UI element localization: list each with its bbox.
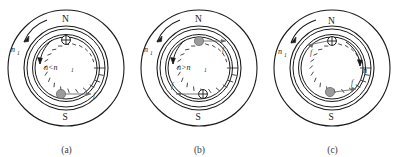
- diagram-panel-a: n 1 n<n 1 f N S (a): [0, 0, 133, 157]
- panel-c-drawing: n 1 n f f N S: [266, 0, 399, 150]
- rotor-relation-label: n<n: [44, 63, 57, 72]
- conductor-into-page-bottom: [56, 89, 65, 98]
- rotor-rotation-arrowhead: [38, 58, 43, 64]
- pole-label-north: N: [328, 16, 335, 26]
- conductor-into-page-top: [194, 36, 203, 45]
- force-label-bottom: f: [171, 81, 175, 90]
- conductor-out-of-page-top: [328, 37, 337, 46]
- field-speed-sublabel: 1: [150, 50, 153, 56]
- pole-label-south: S: [63, 112, 68, 122]
- stator-outer-circle: [8, 10, 124, 126]
- force-label-bottom: f: [351, 78, 355, 87]
- stator-outer-circle: [141, 10, 257, 126]
- diagram-panel-b: n 1 n>n 1 f f N S (b): [133, 0, 266, 157]
- pole-label-south: S: [196, 112, 201, 122]
- induction-machine-diagram-figure: n 1 n<n 1 f N S (a): [0, 0, 399, 157]
- rotor-relation-label: n>n: [177, 63, 190, 72]
- panel-caption-b: (b): [133, 145, 266, 155]
- pole-label-north: N: [195, 14, 202, 24]
- panel-caption-c: (c): [266, 145, 399, 155]
- field-speed-label: n: [11, 45, 15, 54]
- field-speed-label: n: [144, 45, 148, 54]
- field-speed-sublabel: 1: [17, 50, 20, 56]
- rotor-relation-sublabel: 1: [204, 67, 207, 73]
- rotor-slot-teeth: [310, 44, 371, 93]
- conductor-into-page-bottom: [325, 87, 334, 96]
- panel-caption-a: (a): [0, 145, 133, 155]
- pole-label-south: S: [329, 112, 334, 122]
- rotor-rotation-arrowhead: [357, 60, 362, 66]
- stator-outer-circle: [274, 10, 390, 126]
- pole-label-north: N: [62, 14, 69, 24]
- panel-a-drawing: n 1 n<n 1 f N S: [0, 0, 133, 150]
- panel-b-drawing: n 1 n>n 1 f f N S: [133, 0, 266, 150]
- rotor-relation-sublabel: 1: [71, 67, 74, 73]
- rotor-rotation-arrowhead: [171, 58, 176, 64]
- field-speed-label: n: [278, 47, 282, 56]
- rotor-speed-label: n: [363, 66, 367, 75]
- force-label-top: f: [310, 48, 314, 57]
- diagram-panel-c: n 1 n f f N S (c): [266, 0, 399, 157]
- conductor-out-of-page-top: [62, 36, 71, 45]
- conductor-out-of-page-bottom: [199, 90, 208, 99]
- field-speed-sublabel: 1: [284, 52, 287, 58]
